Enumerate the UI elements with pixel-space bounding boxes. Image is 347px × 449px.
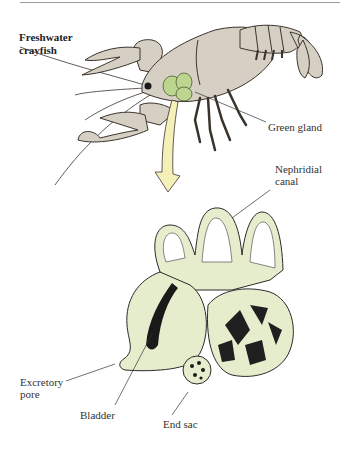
eye bbox=[145, 83, 152, 90]
excretory-pore-line1: Excretory bbox=[20, 376, 63, 388]
excretory-pore-line2: pore bbox=[20, 388, 63, 400]
label-nephridial-canal: Nephridial canal bbox=[275, 163, 322, 187]
label-bladder: Bladder bbox=[80, 409, 115, 421]
excretory-pore-leader bbox=[66, 364, 115, 381]
label-excretory-pore: Excretory pore bbox=[20, 376, 63, 400]
label-green-gland: Green gland bbox=[268, 121, 322, 133]
end-sac bbox=[183, 356, 211, 384]
lower-claw bbox=[78, 103, 175, 142]
nephridial-canal-line2: canal bbox=[275, 175, 322, 187]
label-end-sac: End sac bbox=[163, 418, 198, 430]
nephridial-canal-line1: Nephridial bbox=[275, 163, 322, 175]
end-sac-leader bbox=[172, 392, 188, 415]
